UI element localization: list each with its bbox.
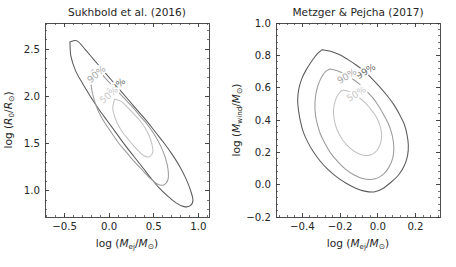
- x-tick-label: 1.0: [190, 221, 206, 232]
- contour-label-99: 99%: [354, 61, 378, 81]
- x-tick-label: 0.0: [101, 221, 117, 232]
- panel-right-svg: −0.4−0.20.00.2−0.20.00.20.40.60.81.099%9…: [228, 0, 456, 267]
- y-axis-label: log (Mwind/M⊙): [230, 83, 244, 156]
- x-axis-label: log (Mej/M⊙): [327, 237, 389, 251]
- panel-title: Metzger & Pejcha (2017): [292, 6, 423, 18]
- contour-figure: −0.50.00.51.01.01.52.02.599%99%90%90%50%…: [0, 0, 456, 267]
- contour-label-50: 50%: [344, 83, 368, 103]
- y-tick-label: 1.0: [24, 185, 40, 196]
- panel-metzger: −0.4−0.20.00.2−0.20.00.20.40.60.81.099%9…: [228, 0, 456, 267]
- axis-frame: [45, 23, 209, 217]
- contour-label-90: 90%: [85, 63, 108, 85]
- panel-title: Sukhbold et al. (2016): [68, 6, 186, 18]
- y-tick-label: 0.4: [255, 115, 271, 126]
- panel-left-svg: −0.50.00.51.01.01.52.02.599%99%90%90%50%…: [0, 0, 228, 267]
- y-tick-label: 0.0: [255, 179, 271, 190]
- y-tick-label: 0.6: [255, 82, 271, 93]
- contour-90: [315, 69, 394, 179]
- y-tick-label: 0.8: [255, 50, 271, 61]
- x-tick-label: 0.5: [146, 221, 162, 232]
- y-axis-label: log (R0/R⊙): [2, 91, 16, 148]
- contour-label-90: 90%: [335, 66, 359, 86]
- left-plot-group: −0.50.00.51.01.01.52.02.599%99%90%90%50%…: [2, 6, 209, 251]
- right-plot-group: −0.4−0.20.00.2−0.20.00.20.40.60.81.099%9…: [230, 6, 440, 251]
- y-tick-label: 2.5: [24, 44, 40, 55]
- x-tick-label: −0.5: [52, 221, 77, 232]
- x-axis-label: log (Mej/M⊙): [96, 237, 158, 251]
- panel-sukhbold: −0.50.00.51.01.01.52.02.599%99%90%90%50%…: [0, 0, 228, 267]
- y-tick-label: 2.0: [24, 91, 40, 102]
- contour-90: [91, 70, 168, 185]
- y-tick-label: 1.0: [255, 18, 271, 29]
- y-tick-label: −0.2: [246, 212, 271, 223]
- x-tick-label: −0.2: [328, 221, 353, 232]
- y-tick-label: 0.2: [255, 147, 271, 158]
- x-tick-label: −0.4: [290, 221, 315, 232]
- x-tick-label: 0.0: [370, 221, 386, 232]
- x-tick-label: 0.2: [407, 221, 423, 232]
- contour-99: [70, 40, 193, 206]
- y-tick-label: 1.5: [24, 138, 40, 149]
